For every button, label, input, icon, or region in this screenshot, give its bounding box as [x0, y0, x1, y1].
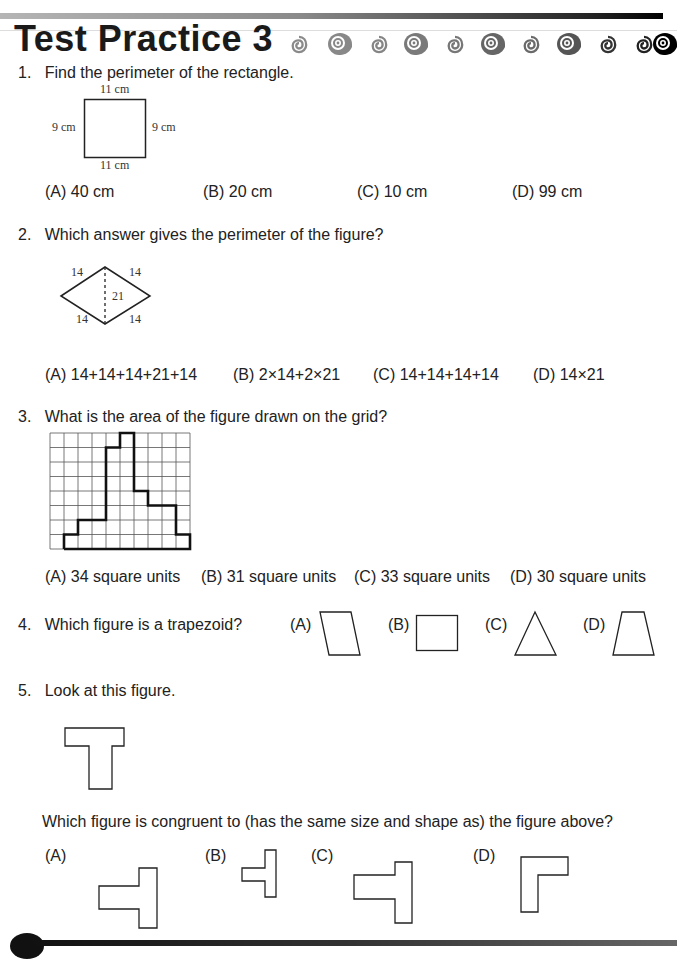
q5-option-a[interactable]: (A)	[45, 847, 66, 865]
question-1: 1. Find the perimeter of the rectangle.	[18, 64, 294, 82]
spiral-icon	[602, 37, 616, 52]
question-number: 1.	[18, 64, 31, 81]
question-5-subtext: Which figure is congruent to (has the sa…	[42, 813, 613, 831]
q2-option-b[interactable]: (B) 2×14+2×21	[233, 366, 340, 384]
rect-right-label: 9 cm	[152, 120, 176, 135]
q5-shape-d[interactable]	[520, 856, 572, 916]
spiral-icon	[373, 37, 387, 52]
question-text: Look at this figure.	[45, 682, 176, 699]
spiral-icon	[293, 37, 307, 52]
question-text: Which answer gives the perimeter of the …	[45, 226, 384, 243]
t-shape-figure	[64, 727, 134, 797]
rhombus-bottom-right-label: 14	[129, 312, 141, 327]
q1-option-d[interactable]: (D) 99 cm	[512, 183, 582, 201]
q2-option-d[interactable]: (D) 14×21	[533, 366, 605, 384]
question-number: 2.	[18, 226, 31, 243]
q1-option-a[interactable]: (A) 40 cm	[45, 183, 114, 201]
q4-option-b[interactable]: (B)	[388, 616, 409, 634]
question-number: 5.	[18, 682, 31, 699]
q3-option-d[interactable]: (D) 30 square units	[510, 568, 646, 586]
rectangle-shape[interactable]	[416, 615, 461, 655]
question-text: What is the area of the figure drawn on …	[45, 408, 387, 425]
triangle-shape[interactable]	[514, 611, 559, 657]
q5-shape-c[interactable]	[353, 861, 418, 929]
rhombus-diagonal-label: 21	[112, 289, 124, 304]
grid-figure	[50, 433, 200, 558]
rect-left-label: 9 cm	[52, 120, 76, 135]
rect-top-label: 11 cm	[100, 82, 129, 97]
spiral-icon	[404, 33, 428, 55]
q5-option-d[interactable]: (D)	[473, 847, 495, 865]
question-4: 4. Which figure is a trapezoid?	[18, 616, 242, 634]
q2-option-c[interactable]: (C) 14+14+14+14	[373, 366, 499, 384]
page-number-badge	[10, 933, 44, 959]
question-text: Find the perimeter of the rectangle.	[45, 64, 294, 81]
q2-option-a[interactable]: (A) 14+14+14+21+14	[45, 366, 197, 384]
question-2: 2. Which answer gives the perimeter of t…	[18, 226, 384, 244]
page-title: Test Practice 3	[14, 18, 273, 60]
q5-option-c[interactable]: (C)	[311, 847, 333, 865]
spiral-icon	[653, 33, 677, 55]
q5-shape-b[interactable]	[241, 849, 281, 901]
rhombus-bottom-left-label: 14	[76, 312, 88, 327]
spiral-icon	[525, 37, 539, 52]
spiral-icon	[638, 37, 652, 52]
question-text: Which figure is a trapezoid?	[45, 616, 242, 633]
trapezoid-shape[interactable]	[612, 611, 658, 657]
q1-option-b[interactable]: (B) 20 cm	[203, 183, 272, 201]
rectangle-figure	[84, 99, 154, 169]
q5-shape-a[interactable]	[98, 867, 163, 935]
question-number: 4.	[18, 616, 31, 633]
q1-option-c[interactable]: (C) 10 cm	[357, 183, 427, 201]
footer-bar	[30, 940, 677, 946]
parallelogram-shape[interactable]	[319, 611, 364, 659]
question-3: 3. What is the area of the figure drawn …	[18, 408, 387, 426]
q4-option-d[interactable]: (D)	[583, 616, 605, 634]
question-number: 3.	[18, 408, 31, 425]
spiral-icon	[481, 33, 505, 55]
spiral-icon	[449, 37, 463, 52]
spiral-icon	[328, 33, 352, 55]
q3-option-a[interactable]: (A) 34 square units	[45, 568, 180, 586]
rhombus-top-right-label: 14	[129, 265, 141, 280]
q4-option-a[interactable]: (A)	[290, 616, 311, 634]
q3-option-b[interactable]: (B) 31 square units	[201, 568, 336, 586]
rhombus-top-left-label: 14	[71, 265, 83, 280]
spiral-decoration-row	[290, 30, 677, 60]
q4-option-c[interactable]: (C)	[485, 616, 507, 634]
spiral-icon	[557, 33, 581, 55]
question-5: 5. Look at this figure.	[18, 682, 175, 700]
q5-option-b[interactable]: (B)	[205, 847, 226, 865]
q3-option-c[interactable]: (C) 33 square units	[354, 568, 490, 586]
